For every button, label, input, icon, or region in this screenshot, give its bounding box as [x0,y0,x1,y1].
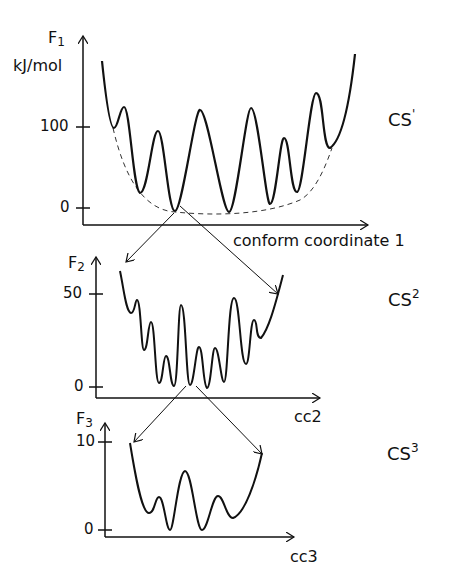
panel2-curve [120,271,283,388]
panel2-y-label: F2 [68,255,85,273]
panel3-state-label: CS3 [387,442,419,463]
panel1-state-label: CS' [388,108,415,129]
panel3-curve [130,443,262,530]
panel2-tick-0: 0 [74,379,84,394]
panel1-y-label: F1 [48,30,65,48]
panel3-y-label: F3 [76,411,93,429]
arrow-cs1-to-cs2-left [126,213,174,262]
panel1-envelope [113,128,332,214]
panel3-tick-10: 10 [76,434,95,449]
panel2-x-label: cc2 [294,409,322,425]
panel2-tick-50: 50 [63,286,82,301]
panel3-tick-0: 0 [84,522,94,537]
arrow-cs2-to-cs3-left [134,386,186,442]
panel1-tick-0: 0 [60,200,70,215]
panel1-y-unit: kJ/mol [13,58,62,74]
panel3-x-label: cc3 [290,549,318,565]
panel1-x-label: conform coordinate 1 [233,233,405,249]
panel1-curve [102,54,355,212]
arrow-cs1-to-cs2-right [180,206,278,294]
panel3-axes [98,423,294,537]
panel1-tick-100: 100 [40,119,69,134]
panel2-state-label: CS2 [388,288,420,309]
arrow-cs2-to-cs3-right [196,386,262,454]
